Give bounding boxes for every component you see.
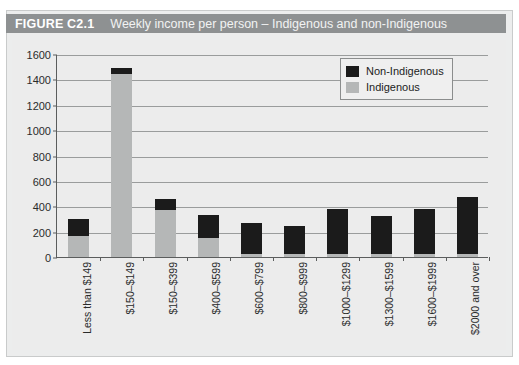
y-axis-tick-label: 200 [33, 227, 51, 239]
x-axis-tick-label: $150–$149 [125, 262, 136, 315]
legend-item: Non-Indigenous [346, 63, 444, 79]
x-axis-tick-mark [359, 257, 360, 261]
figure-title-bar: FIGURE C2.1 Weekly income per person – I… [6, 14, 506, 33]
legend-item-label: Non-Indigenous [366, 65, 444, 77]
bar-group[interactable] [371, 216, 392, 257]
x-axis-tick-label: $800–$999 [298, 262, 309, 315]
y-axis-tick-label: 1600 [27, 49, 51, 61]
y-axis-tick-label: 1400 [27, 74, 51, 86]
figure-number-label: FIGURE C2.1 [15, 17, 94, 31]
bar-segment-non-indigenous[interactable] [457, 197, 478, 253]
bar-segment-non-indigenous[interactable] [241, 223, 262, 253]
bar-segment-non-indigenous[interactable] [371, 216, 392, 253]
chart-legend: Non-IndigenousIndigenous [340, 58, 453, 100]
bar-segment-indigenous[interactable] [68, 236, 89, 257]
bar-segment-non-indigenous[interactable] [198, 215, 219, 238]
bar-group[interactable] [198, 215, 219, 257]
y-axis-tick-mark [53, 258, 57, 259]
bar-segment-non-indigenous[interactable] [327, 209, 348, 253]
x-axis-tick-label: $150–$399 [168, 262, 179, 315]
bar-segment-non-indigenous[interactable] [68, 219, 89, 236]
y-axis-tick-label: 1200 [27, 100, 51, 112]
x-axis-tick-mark [403, 257, 404, 261]
x-axis-labels: Less than $149$150–$149$150–$399$400–$59… [56, 262, 488, 348]
bar-segment-indigenous[interactable] [284, 254, 305, 257]
bar-group[interactable] [284, 226, 305, 257]
bar-segment-indigenous[interactable] [241, 254, 262, 257]
bar-segment-non-indigenous[interactable] [284, 226, 305, 254]
bar-group[interactable] [68, 219, 89, 257]
bar-group[interactable] [414, 209, 435, 257]
y-axis-tick-label: 600 [33, 176, 51, 188]
legend-item: Indigenous [346, 79, 444, 95]
bar-group[interactable] [457, 197, 478, 257]
x-axis-tick-label: Less than $149 [82, 262, 93, 334]
y-axis-tick-label: 1000 [27, 125, 51, 137]
x-axis-tick-label: $1600–$1999 [427, 262, 438, 326]
chart-area: 02004006008001000120014001600 Less than … [12, 40, 506, 350]
bar-group[interactable] [155, 199, 176, 257]
bar-segment-indigenous[interactable] [198, 238, 219, 257]
x-axis-tick-label: $1300–$1599 [384, 262, 395, 326]
x-axis-tick-label: $400–$599 [211, 262, 222, 315]
x-axis-tick-mark [230, 257, 231, 261]
bar-segment-indigenous[interactable] [457, 254, 478, 257]
bar-segment-indigenous[interactable] [414, 254, 435, 257]
bar-segment-indigenous[interactable] [111, 74, 132, 257]
x-axis-tick-mark [489, 257, 490, 261]
bar-group[interactable] [111, 68, 132, 257]
x-axis-tick-mark [143, 257, 144, 261]
bar-segment-non-indigenous[interactable] [111, 68, 132, 74]
x-axis-tick-label: $600–$799 [254, 262, 265, 315]
x-axis-tick-label: $1000–$1299 [341, 262, 352, 326]
x-axis-tick-mark [446, 257, 447, 261]
figure-root: FIGURE C2.1 Weekly income per person – I… [0, 0, 519, 365]
x-axis-tick-mark [187, 257, 188, 261]
bar-group[interactable] [327, 209, 348, 257]
x-axis-tick-mark [273, 257, 274, 261]
x-axis-tick-mark [316, 257, 317, 261]
bar-segment-indigenous[interactable] [327, 254, 348, 257]
legend-swatch-indigenous [346, 82, 359, 93]
bar-segment-non-indigenous[interactable] [414, 209, 435, 253]
bar-group[interactable] [241, 223, 262, 257]
x-axis-tick-label: $2000 and over [470, 262, 481, 335]
legend-item-label: Indigenous [366, 81, 420, 93]
y-axis-tick-label: 400 [33, 201, 51, 213]
y-axis-tick-label: 800 [33, 151, 51, 163]
y-axis-tick-label: 0 [45, 252, 51, 264]
legend-swatch-non-indigenous [346, 66, 359, 77]
figure-title-text: Weekly income per person – Indigenous an… [110, 17, 447, 31]
bar-segment-indigenous[interactable] [371, 254, 392, 257]
x-axis-tick-mark [100, 257, 101, 261]
bar-segment-indigenous[interactable] [155, 210, 176, 257]
bar-segment-non-indigenous[interactable] [155, 199, 176, 210]
